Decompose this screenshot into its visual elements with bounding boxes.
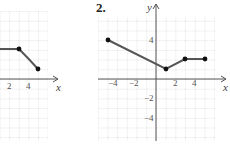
right-xtick: 2 [173, 78, 178, 88]
right-point [203, 57, 208, 62]
left-graph: 2 4 x [0, 11, 61, 141]
right-ytick: −4 [144, 113, 154, 123]
right-point [183, 57, 188, 62]
right-xtick: −2 [129, 78, 139, 88]
right-ytick: 4 [149, 35, 154, 45]
left-xtick: 4 [26, 81, 31, 91]
right-xtick: −4 [108, 78, 118, 88]
left-point [36, 67, 41, 72]
left-xtick: 2 [7, 81, 12, 91]
right-x-label: x [222, 81, 228, 93]
right-ytick: −2 [144, 93, 154, 103]
right-y-label: y [146, 1, 152, 13]
right-point [164, 67, 169, 72]
right-graph: 2. y x −4 −2 2 4 4 −2 −4 [96, 0, 228, 141]
left-point [17, 47, 22, 52]
right-point [106, 38, 111, 43]
left-x-label: x [55, 81, 61, 93]
right-xtick: 4 [192, 78, 197, 88]
problem-number: 2. [96, 0, 106, 15]
left-grid [0, 11, 48, 141]
figure: 2 4 x 2. y x −4 −2 2 4 4 −2 −4 [0, 0, 230, 144]
